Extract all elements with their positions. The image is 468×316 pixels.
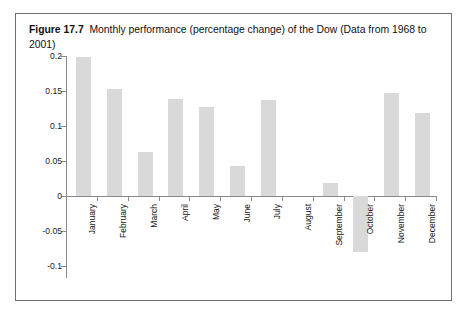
x-tick-mark xyxy=(251,196,252,201)
x-axis-label: June xyxy=(242,204,252,222)
x-tick-mark xyxy=(220,196,221,201)
x-axis-label: May xyxy=(211,204,221,220)
x-tick-mark xyxy=(344,196,345,201)
x-axis-label: February xyxy=(118,204,128,238)
x-axis-label: March xyxy=(149,204,159,228)
bar xyxy=(323,183,338,196)
y-tick-label: -0.1 xyxy=(47,261,62,271)
figure-frame: Figure 17.7 Monthly performance (percent… xyxy=(15,13,452,301)
y-tick-label: -0.05 xyxy=(42,226,62,236)
x-tick-mark xyxy=(159,196,160,201)
y-tick-label: 0.1 xyxy=(50,121,62,131)
bar xyxy=(76,57,91,196)
bar xyxy=(107,89,122,196)
x-tick-mark xyxy=(97,196,98,201)
caption-text: Monthly performance (percentage change) … xyxy=(29,24,426,50)
x-tick-mark xyxy=(374,196,375,201)
x-tick-mark xyxy=(436,196,437,201)
x-tick-mark xyxy=(405,196,406,201)
bar xyxy=(384,93,399,196)
x-tick-mark xyxy=(282,196,283,201)
x-axis-label: December xyxy=(427,204,437,243)
x-axis-label: November xyxy=(396,204,406,243)
x-axis-label: August xyxy=(303,204,313,230)
x-axis-label: April xyxy=(180,204,190,221)
figure-number: Figure 17.7 xyxy=(29,24,84,35)
x-axis-label: July xyxy=(272,204,282,219)
x-tick-mark xyxy=(189,196,190,201)
y-tick-label: 0.15 xyxy=(45,86,62,96)
x-axis-label: September xyxy=(334,204,344,246)
bar xyxy=(230,166,245,196)
bar xyxy=(415,113,430,196)
bar xyxy=(138,152,153,196)
bar-chart-plot-area: 0.20.150.10.050-0.05-0.1 JanuaryFebruary… xyxy=(66,56,438,291)
y-tick-label: 0.05 xyxy=(45,156,62,166)
bar xyxy=(261,100,276,196)
figure-caption: Figure 17.7 Monthly performance (percent… xyxy=(29,23,433,52)
bar xyxy=(199,107,214,196)
x-tick-mark xyxy=(313,196,314,201)
bar xyxy=(168,99,183,196)
x-axis-label: January xyxy=(87,204,97,234)
x-tick-mark xyxy=(128,196,129,201)
y-tick-label: 0 xyxy=(57,191,62,201)
x-axis-label: October xyxy=(365,204,375,234)
y-tick-label: 0.2 xyxy=(50,51,62,61)
y-axis-line xyxy=(66,56,67,278)
